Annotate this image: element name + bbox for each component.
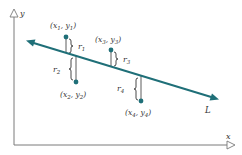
point-label-2: (x2, y2) [60, 90, 86, 100]
brace-r3 [114, 52, 118, 66]
point-label-1: (x1, y1) [50, 21, 76, 31]
line-arrow-left-icon [26, 40, 36, 47]
x-axis-arrow-icon [227, 141, 235, 149]
point-2 [74, 80, 79, 85]
brace-r4 [134, 78, 138, 100]
regression-diagram: y x L (x1, y1) (x2, y2) (x3, y3) (x4, y4 [0, 0, 242, 155]
y-axis-arrow-icon [10, 9, 18, 17]
line-label: L [204, 105, 211, 115]
residual-label-r2: r2 [53, 65, 61, 75]
residual-label-r1: r1 [78, 42, 85, 52]
brace-r1 [69, 39, 73, 53]
point-label-3: (x3, y3) [95, 35, 121, 45]
brace-r2 [69, 58, 73, 80]
y-axis-label: y [19, 9, 25, 18]
point-label-4: (x4, y4) [125, 108, 151, 118]
point-1 [64, 35, 69, 40]
line-arrow-right-icon [210, 94, 220, 101]
residual-labels: r1 r2 r3 r4 [53, 42, 131, 94]
x-axis-label: x [226, 132, 231, 141]
regression-line: L [26, 40, 219, 116]
point-3 [109, 48, 114, 53]
residual-label-r4: r4 [117, 84, 125, 94]
axes: y x [10, 9, 235, 149]
point-4 [139, 99, 144, 104]
residual-label-r3: r3 [123, 55, 131, 65]
